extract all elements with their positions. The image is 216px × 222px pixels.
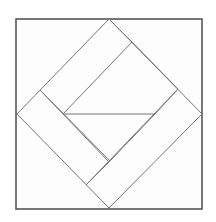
diagram-canvas (0, 0, 216, 222)
quilt-block-diagram (0, 0, 216, 222)
